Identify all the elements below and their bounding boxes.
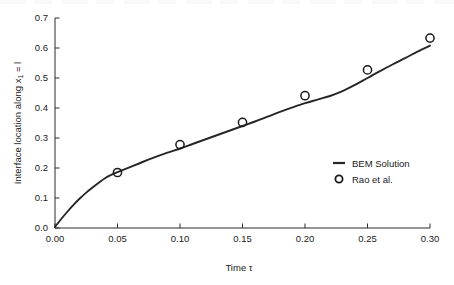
x-tick-label: 0.00	[46, 233, 65, 244]
data-point-marker	[301, 92, 309, 100]
x-axis-ticks	[55, 224, 430, 229]
legend-circle-marker	[335, 175, 342, 182]
x-tick-label: 0.30	[421, 233, 440, 244]
x-tick-label: 0.10	[171, 233, 190, 244]
y-axis-tick-labels: 0.00.10.20.30.40.50.60.7	[35, 12, 48, 233]
x-tick-label: 0.15	[233, 233, 252, 244]
series-bem-solution-line	[55, 46, 430, 227]
y-tick-label: 0.1	[35, 192, 48, 203]
chart-plot-area: 0.000.050.100.150.200.250.30 0.00.10.20.…	[0, 0, 454, 285]
data-series-group	[55, 34, 434, 227]
data-point-marker	[176, 141, 184, 149]
y-tick-label: 0.2	[35, 162, 48, 173]
y-tick-label: 0.4	[35, 102, 48, 113]
legend-label-bem-solution: BEM Solution	[352, 158, 410, 169]
x-axis-title: Time τ	[225, 262, 252, 273]
x-tick-label: 0.25	[358, 233, 377, 244]
data-point-marker	[426, 34, 434, 42]
x-tick-label: 0.05	[108, 233, 127, 244]
y-tick-label: 0.7	[35, 12, 48, 23]
x-tick-label: 0.20	[296, 233, 315, 244]
x-axis-tick-labels: 0.000.050.100.150.200.250.30	[46, 233, 440, 244]
y-tick-label: 0.0	[35, 222, 48, 233]
chart-figure: 0.000.050.100.150.200.250.30 0.00.10.20.…	[0, 0, 454, 285]
y-axis-title: Interface location along x1 = l	[12, 62, 24, 184]
chart-legend: BEM Solution Rao et al.	[333, 158, 410, 185]
y-axis-ticks	[55, 18, 60, 228]
legend-label-rao-et-al: Rao et al.	[352, 174, 393, 185]
data-point-marker	[363, 66, 371, 74]
y-tick-label: 0.6	[35, 42, 48, 53]
axes-group	[55, 18, 430, 228]
y-tick-label: 0.5	[35, 72, 48, 83]
y-tick-label: 0.3	[35, 132, 48, 143]
